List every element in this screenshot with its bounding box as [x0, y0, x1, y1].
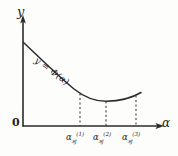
tick-superscript-1: (1)	[76, 131, 84, 137]
tick-subscript-2: эj	[99, 138, 103, 144]
function-curve	[24, 43, 142, 102]
tick-subscript-3: эj	[128, 138, 132, 144]
tick-label-alpha-3: αэj(3)	[122, 131, 140, 144]
figure-container: y α 0 y = Φ(α) αэj(1) αэj(2) αэj(3)	[0, 0, 178, 156]
origin-label: 0	[12, 117, 20, 128]
x-axis-label: α	[162, 117, 170, 129]
tick-superscript-2: (2)	[103, 131, 111, 137]
tick-subscript-1: эj	[72, 138, 76, 144]
tick-label-alpha-2: αэj(2)	[93, 131, 111, 144]
y-axis-label: y	[17, 5, 24, 18]
tick-label-alpha-1: αэj(1)	[66, 131, 84, 144]
plot-canvas	[0, 0, 178, 156]
tick-superscript-3: (3)	[132, 131, 140, 137]
